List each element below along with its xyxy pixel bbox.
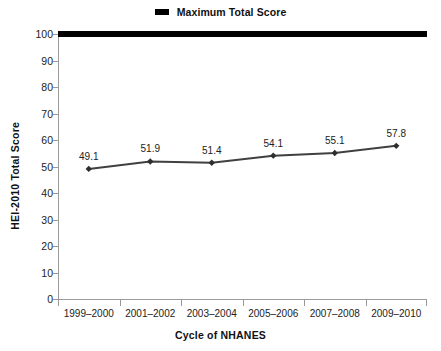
data-point-label-2: 51.4 xyxy=(202,145,221,156)
x-tick-mark xyxy=(366,299,367,306)
chart-series-svg xyxy=(58,34,427,299)
x-tick-mark xyxy=(243,299,244,306)
data-point-label-3: 54.1 xyxy=(264,138,283,149)
data-point-marker-1 xyxy=(147,158,153,164)
y-tick-label: 50 xyxy=(41,161,53,173)
y-tick-label: 80 xyxy=(41,81,53,93)
hei-total-score-markers xyxy=(86,143,400,172)
data-point-marker-5 xyxy=(393,143,399,149)
hei-total-score-line xyxy=(89,146,397,169)
data-point-label-4: 55.1 xyxy=(325,135,344,146)
y-tick-label: 30 xyxy=(41,214,53,226)
data-point-label-5: 57.8 xyxy=(387,128,406,139)
y-tick-label: 0 xyxy=(47,293,53,305)
legend-line-swatch xyxy=(155,9,169,15)
x-axis-title: Cycle of NHANES xyxy=(0,329,441,341)
x-tick-mark xyxy=(58,299,59,306)
data-point-label-0: 49.1 xyxy=(79,151,98,162)
y-tick-label: 10 xyxy=(41,267,53,279)
x-tick-mark xyxy=(181,299,182,306)
plot-area: 0102030405060708090100 1999–20002001–200… xyxy=(58,34,427,299)
y-tick-label: 60 xyxy=(41,134,53,146)
data-point-label-1: 51.9 xyxy=(141,143,160,154)
x-tick-label-2: 2003–2004 xyxy=(187,308,237,319)
y-tick-label: 70 xyxy=(41,108,53,120)
x-tick-mark xyxy=(426,299,427,306)
x-tick-label-4: 2007–2008 xyxy=(310,308,360,319)
x-tick-label-1: 2001–2002 xyxy=(125,308,175,319)
x-tick-mark xyxy=(304,299,305,306)
x-tick-label-5: 2009–2010 xyxy=(371,308,421,319)
x-tick-label-3: 2005–2006 xyxy=(248,308,298,319)
data-point-marker-0 xyxy=(86,166,92,172)
data-point-marker-4 xyxy=(332,150,338,156)
y-tick-label: 20 xyxy=(41,240,53,252)
legend-label-maximum-total-score: Maximum Total Score xyxy=(177,6,287,18)
y-tick-label: 100 xyxy=(35,28,53,40)
data-point-marker-3 xyxy=(270,152,276,158)
y-axis-title: HEI-2010 Total Score xyxy=(9,122,21,230)
x-tick-mark xyxy=(120,299,121,306)
y-tick-label: 40 xyxy=(41,187,53,199)
data-point-marker-2 xyxy=(209,160,215,166)
x-tick-label-0: 1999–2000 xyxy=(64,308,114,319)
chart-legend: Maximum Total Score xyxy=(0,6,441,18)
y-tick-label: 90 xyxy=(41,55,53,67)
